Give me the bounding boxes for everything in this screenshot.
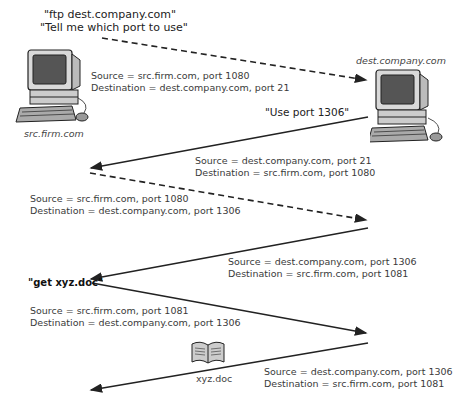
arrow-2-label: Source = dest.company.com, port 21 Desti… [195,155,375,179]
destination-host-label: dest.company.com [356,55,446,66]
arrow-3-label: Source = src.firm.com, port 1080 Destina… [30,193,241,217]
ftp-request-line-1: "ftp dest.company.com" [40,8,180,21]
get-request-message: "get xyz.doc" [28,276,103,289]
ftp-request-line-2: "Tell me which port to use" [40,21,180,34]
arrow-4-label: Source = dest.company.com, port 1306 Des… [228,256,417,280]
computer-icon-source [14,48,94,126]
ftp-request-message: "ftp dest.company.com" "Tell me which po… [40,8,180,34]
arrow-1-label: Source = src.firm.com, port 1080 Destina… [91,70,289,94]
source-host-label: src.firm.com [24,128,84,139]
file-label: xyz.doc [196,373,232,384]
arrow-6-label: Source = dest.company.com, port 1306 Des… [264,366,453,390]
port-reply-message: "Use port 1306" [265,106,349,119]
computer-icon-destination [370,68,450,146]
arrow-5-label: Source = src.firm.com, port 1081 Destina… [30,305,241,329]
book-icon [190,340,226,366]
